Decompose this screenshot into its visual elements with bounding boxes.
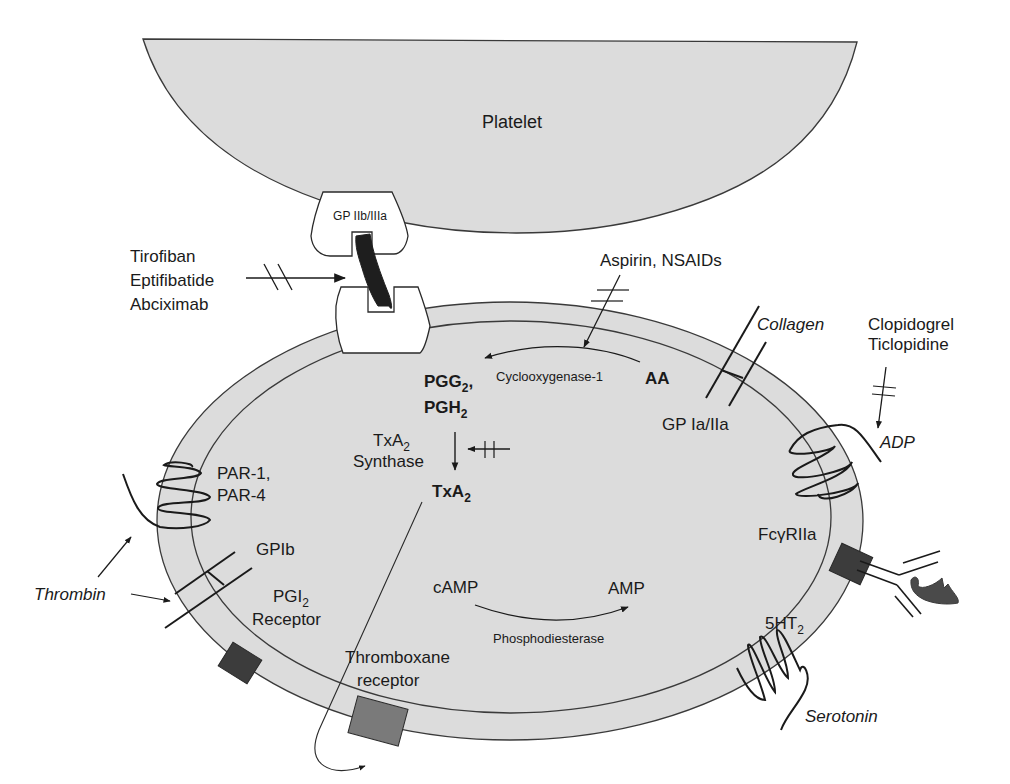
gp1b-label: GPIb [256, 540, 295, 559]
thromboxane-receptor-label-1: Thromboxane [345, 648, 450, 667]
amp-label: AMP [608, 579, 645, 598]
platelet-antiplatelet-diagram: Platelet GP IIb/IIIa Tirofiban Eptifibat… [0, 0, 1010, 784]
par1-label: PAR-1, [217, 464, 271, 483]
txa2-synthase-label-2: Synthase [353, 452, 424, 471]
gp1a2a-label: GP Ia/IIa [662, 415, 729, 434]
inhibitor-ticlopidine: Ticlopidine [868, 335, 949, 354]
upper-platelet-body [143, 39, 857, 233]
inhibitor-eptifibatide: Eptifibatide [130, 271, 214, 290]
block-mark [873, 386, 896, 388]
adp-label: ADP [879, 433, 916, 452]
inhibitor-tirofiban: Tirofiban [130, 247, 196, 266]
inhibitor-abciximab: Abciximab [130, 295, 208, 314]
adp-inhibition-arrow [878, 367, 886, 428]
gp2b3a-label: GP IIb/IIIa [333, 209, 387, 223]
aspirin-label: Aspirin, NSAIDs [600, 251, 722, 270]
block-mark [872, 394, 895, 396]
fcgamma-label: FcγRIIa [758, 525, 817, 544]
thromboxane-receptor-label-2: receptor [357, 671, 420, 690]
par4-label: PAR-4 [217, 486, 266, 505]
aa-label: AA [645, 369, 670, 388]
thrombin-to-gp1b-arrow [131, 594, 170, 601]
serotonin-label: Serotonin [805, 707, 878, 726]
phosphodiesterase-label: Phosphodiesterase [493, 631, 604, 646]
gp2b3a-complex: GP IIb/IIIa Tirofiban Eptifibatide Abcix… [130, 192, 430, 353]
block-mark [264, 264, 278, 290]
upper-platelet: Platelet [143, 39, 857, 233]
inhibitor-clopidogrel: Clopidogrel [868, 315, 954, 334]
collagen-label: Collagen [757, 315, 824, 334]
platelet-label: Platelet [482, 112, 542, 132]
pgi2-label-2: Receptor [252, 610, 321, 629]
block-mark [278, 264, 292, 290]
camp-label: cAMP [433, 578, 478, 597]
antigen-icon [911, 577, 958, 604]
thrombin-ligand: Thrombin [34, 537, 170, 604]
thrombin-label: Thrombin [34, 585, 106, 604]
thrombin-to-par-arrow [98, 537, 131, 577]
cox-enzyme-label: Cyclooxygenase-1 [496, 369, 603, 384]
